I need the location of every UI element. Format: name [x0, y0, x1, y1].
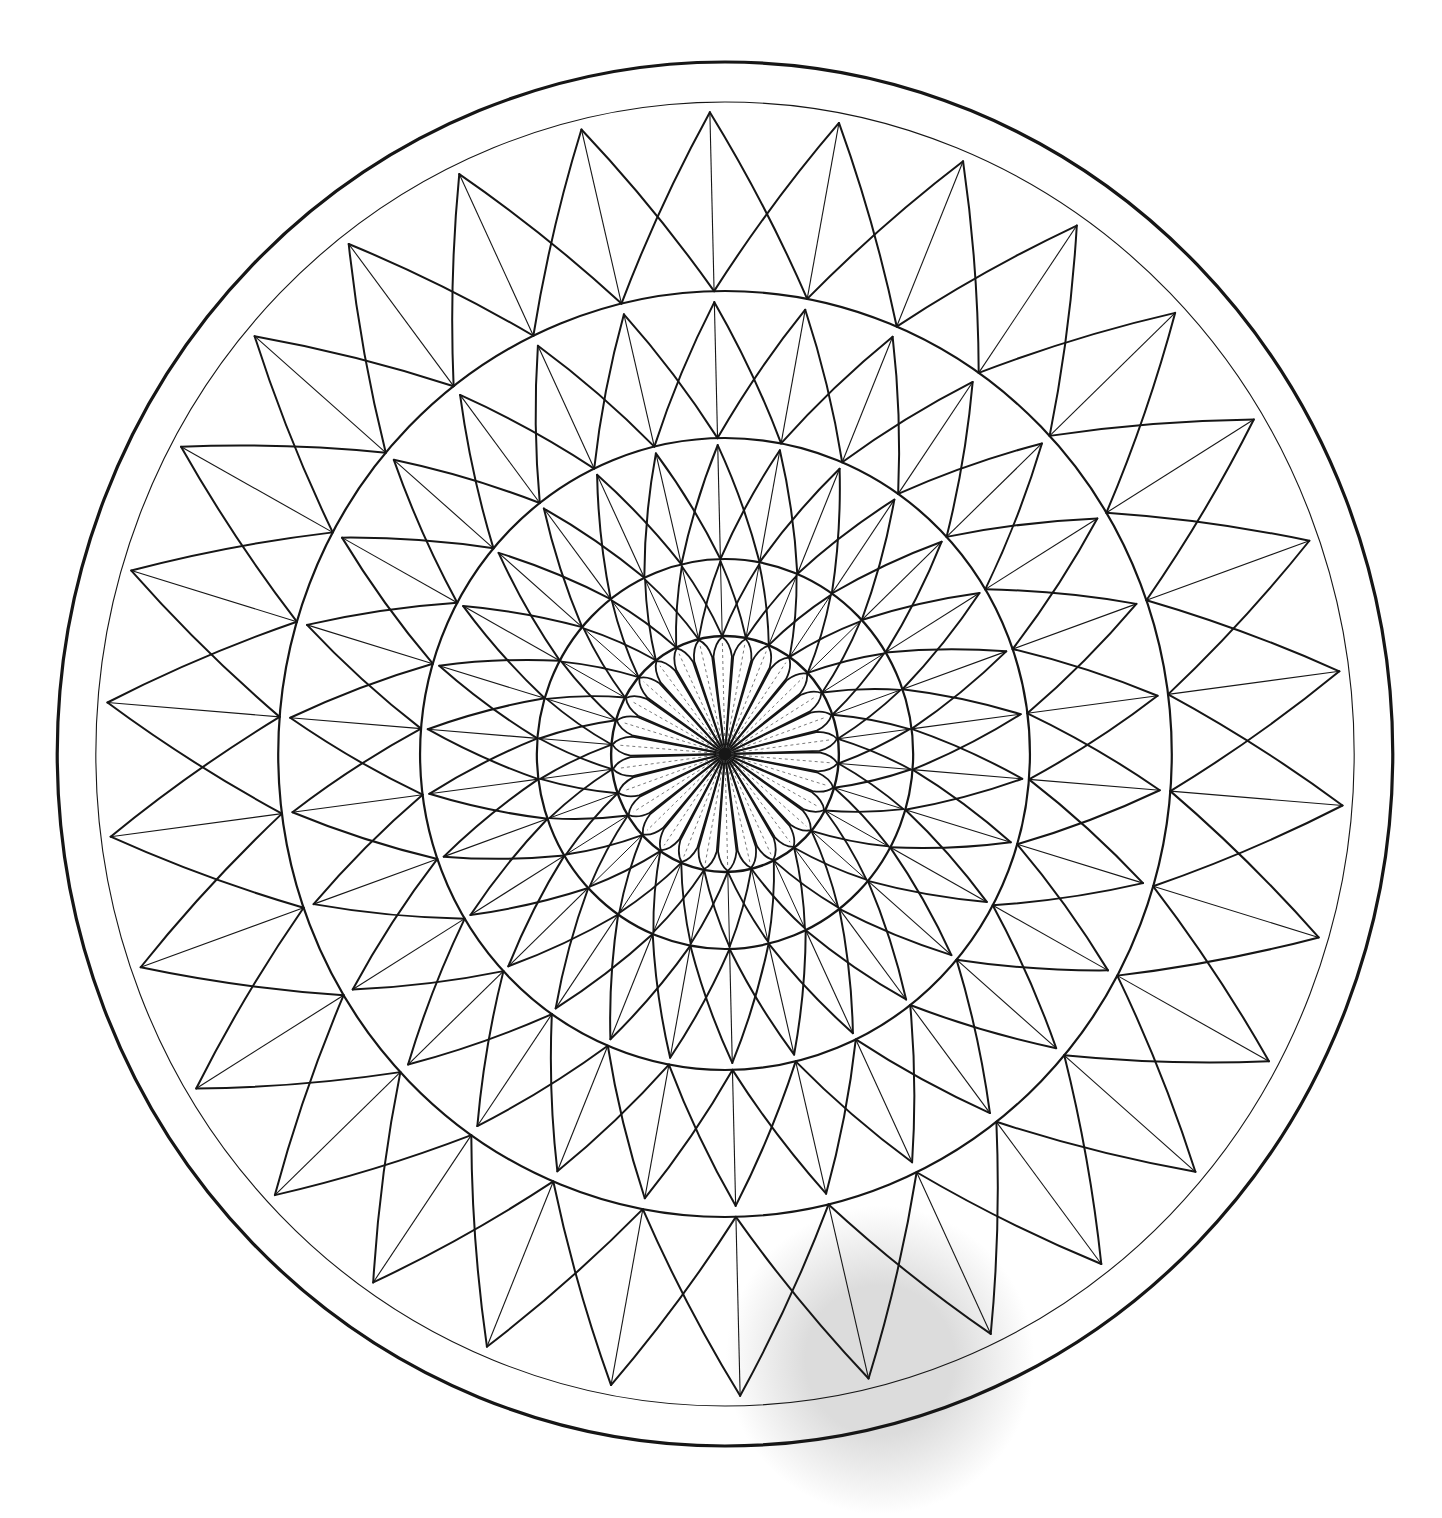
- spike-leg-right: [829, 1204, 991, 1334]
- spike-leg-left: [699, 561, 721, 639]
- spike-leg-left: [408, 1014, 552, 1064]
- spike-leg-right: [822, 621, 860, 692]
- spike-leg-right: [839, 123, 897, 327]
- spike-leg-left: [842, 382, 972, 462]
- spike: [508, 856, 618, 967]
- spike-leg-left: [985, 589, 1136, 604]
- spike-leg-left: [544, 509, 582, 628]
- spike-leg-left: [314, 904, 465, 919]
- spike-midline: [710, 112, 714, 291]
- spike-leg-right: [107, 622, 296, 703]
- spike-leg-right: [720, 561, 746, 638]
- spike-midline: [1106, 420, 1253, 513]
- spike-leg-left: [307, 625, 421, 729]
- spike: [584, 628, 656, 697]
- spike: [774, 831, 838, 908]
- spike-midline: [196, 995, 343, 1088]
- spike-leg-left: [768, 861, 774, 942]
- spike-leg-right: [794, 848, 866, 880]
- spike-leg-left: [444, 856, 565, 859]
- spike-leg-right: [957, 960, 1108, 971]
- spike-leg-right: [342, 538, 493, 549]
- spike-midline: [624, 314, 654, 446]
- spike: [897, 226, 1077, 436]
- spike-leg-left: [508, 915, 618, 967]
- spike: [477, 971, 607, 1126]
- center-hub: [719, 748, 731, 760]
- spike: [832, 542, 942, 653]
- spike: [533, 129, 714, 335]
- spike-leg-right: [993, 883, 1143, 905]
- spike-leg-left: [131, 571, 279, 717]
- spike-leg-left: [714, 123, 839, 291]
- spike: [832, 715, 909, 764]
- spike-leg-left: [653, 870, 704, 932]
- spike: [394, 460, 540, 603]
- spike-midline: [459, 174, 533, 336]
- spike-leg-left: [718, 310, 806, 438]
- spike-leg-left: [141, 967, 344, 995]
- spike: [342, 538, 493, 664]
- spike: [373, 1072, 553, 1282]
- spike-leg-left: [825, 810, 866, 879]
- spike-midline: [394, 460, 494, 549]
- spike-leg-left: [1106, 513, 1309, 541]
- spike-midline: [487, 1181, 553, 1346]
- spike-leg-left: [1146, 600, 1339, 671]
- spike-leg-left: [790, 621, 861, 656]
- spike-leg-right: [131, 532, 332, 570]
- spike-leg-right: [825, 809, 904, 812]
- spike-leg-right: [910, 1005, 1056, 1048]
- spike-leg-left: [342, 538, 433, 664]
- spike-midline: [1117, 976, 1269, 1062]
- spike-midline: [730, 949, 733, 1063]
- spike: [1117, 791, 1318, 976]
- spike-leg-left: [732, 944, 768, 1063]
- spike-midline: [796, 1061, 826, 1193]
- spike-midline: [645, 1065, 669, 1199]
- spike: [428, 698, 545, 779]
- spike-midline: [499, 553, 583, 627]
- spike-leg-right: [1064, 1055, 1269, 1062]
- spike: [996, 976, 1195, 1172]
- spike: [131, 532, 332, 717]
- spike-midline: [868, 881, 952, 955]
- spike-leg-right: [1153, 805, 1342, 886]
- spike-leg-right: [653, 934, 670, 1058]
- spike-midline: [714, 302, 717, 438]
- spike-midline: [581, 129, 621, 303]
- spike-leg-right: [996, 1122, 1195, 1172]
- spike-leg-right: [714, 302, 781, 443]
- spike-midline: [1029, 779, 1160, 790]
- spike-leg-left: [477, 1046, 607, 1126]
- spike-midline: [897, 161, 963, 326]
- spike-leg-left: [1050, 420, 1254, 436]
- spike: [107, 622, 296, 814]
- spike-leg-left: [539, 739, 612, 770]
- spike-leg-left: [832, 715, 909, 729]
- spike-leg-left: [654, 302, 714, 446]
- spike-midline: [957, 960, 1057, 1049]
- spike-leg-right: [553, 1181, 611, 1385]
- spike-leg-right: [1170, 671, 1339, 791]
- spike-leg-left: [181, 447, 297, 622]
- spike-leg-right: [349, 244, 534, 336]
- spike: [290, 664, 433, 795]
- spike: [561, 662, 638, 721]
- spike-leg-left: [611, 1217, 736, 1385]
- spike: [979, 313, 1175, 513]
- spike-midline: [913, 770, 1023, 779]
- spike-midline: [549, 793, 617, 818]
- spike: [1017, 713, 1160, 844]
- spike-leg-right: [141, 814, 282, 968]
- spike-leg-right: [645, 580, 699, 640]
- spike-leg-right: [985, 443, 1042, 589]
- spike-leg-right: [394, 460, 540, 503]
- spike: [957, 844, 1108, 970]
- spike-leg-left: [644, 453, 656, 577]
- spike-leg-right: [111, 717, 280, 837]
- spike-leg-left: [839, 909, 853, 1033]
- spike: [834, 739, 911, 788]
- spike: [255, 336, 454, 532]
- spike-leg-left: [740, 1204, 828, 1395]
